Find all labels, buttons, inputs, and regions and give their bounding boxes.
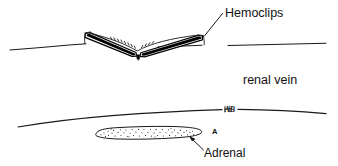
hemoclips-leader-line xyxy=(204,14,222,37)
lower-vessel-outline xyxy=(18,109,326,127)
hemoclip-left-arm-shade xyxy=(87,34,136,56)
renal-vein-label: renal vein xyxy=(243,73,297,87)
hemoclips-callout: Hemoclips xyxy=(204,6,283,36)
adrenal-callout: Adrenal xyxy=(189,136,245,160)
adrenal-gland xyxy=(96,126,202,139)
adrenal-label: Adrenal xyxy=(204,146,245,160)
hemoclip-right-arm-cap xyxy=(198,35,203,36)
adrenal-arrowhead xyxy=(189,136,196,141)
hemoclips-label: Hemoclips xyxy=(225,6,283,20)
hemoclip-right-anchor xyxy=(203,35,204,45)
adrenal-marker-letter-a: A xyxy=(212,127,218,136)
hemoclip-left-anchor xyxy=(85,33,86,43)
diagram-canvas: Hemoclips renal vein AB xyxy=(0,0,338,166)
surgical-diagram-figure: Hemoclips renal vein AB xyxy=(0,0,338,166)
ab-scribble-marker: AB xyxy=(224,105,236,114)
